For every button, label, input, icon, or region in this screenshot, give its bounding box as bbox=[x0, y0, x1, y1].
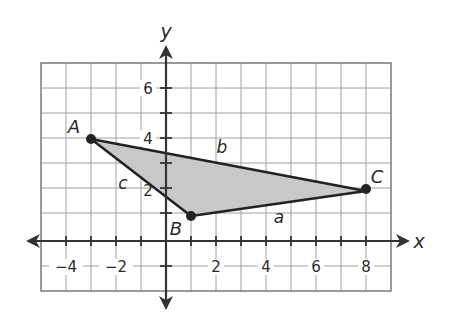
y-tick-label: 4 bbox=[143, 130, 153, 148]
vertex-c-label: C bbox=[371, 166, 384, 187]
x-tick-label: −2 bbox=[105, 258, 127, 276]
vertex-a-label: A bbox=[67, 116, 80, 137]
side-c-label: c bbox=[118, 173, 128, 193]
x-tick-label: 4 bbox=[261, 258, 271, 276]
vertex-a-point bbox=[86, 134, 96, 144]
triangle-abc bbox=[91, 139, 366, 216]
y-axis-label: y bbox=[159, 20, 172, 42]
side-b-label: b bbox=[217, 137, 228, 157]
coordinate-plane: −4 −2 2 4 6 8 6 4 2 x y A B C a b c bbox=[0, 0, 449, 321]
y-tick-label: 2 bbox=[143, 182, 153, 200]
vertex-b-point bbox=[186, 211, 196, 221]
x-tick-label: −4 bbox=[55, 258, 77, 276]
x-tick-label: 6 bbox=[311, 258, 321, 276]
y-tick-label: 6 bbox=[143, 80, 153, 98]
side-a-label: a bbox=[274, 207, 284, 227]
x-tick-label: 2 bbox=[211, 258, 221, 276]
x-axis-label: x bbox=[412, 230, 425, 252]
vertex-b-label: B bbox=[170, 218, 182, 239]
vertex-c-point bbox=[361, 184, 371, 194]
x-tick-label: 8 bbox=[361, 258, 371, 276]
